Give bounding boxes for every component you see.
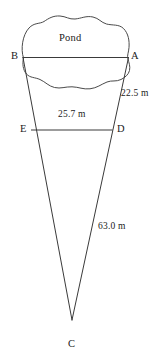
measurement-label-ac: 63.0 m xyxy=(98,222,126,232)
vertex-label-d: D xyxy=(117,124,125,135)
measurement-label-ed: 25.7 m xyxy=(58,110,86,120)
vertex-label-b: B xyxy=(11,51,18,62)
segment-BC xyxy=(23,58,72,321)
pond-label: Pond xyxy=(59,33,81,44)
vertex-label-c: C xyxy=(68,339,75,350)
vertex-label-a: A xyxy=(131,51,139,62)
measurement-label-ad: 22.5 m xyxy=(121,89,149,99)
pond-outline-shape xyxy=(22,16,130,89)
pond-triangle-diagram: Pond B A 22.5 m 25.7 m E D 63.0 m C xyxy=(0,0,163,358)
vertex-label-e: E xyxy=(20,124,27,135)
